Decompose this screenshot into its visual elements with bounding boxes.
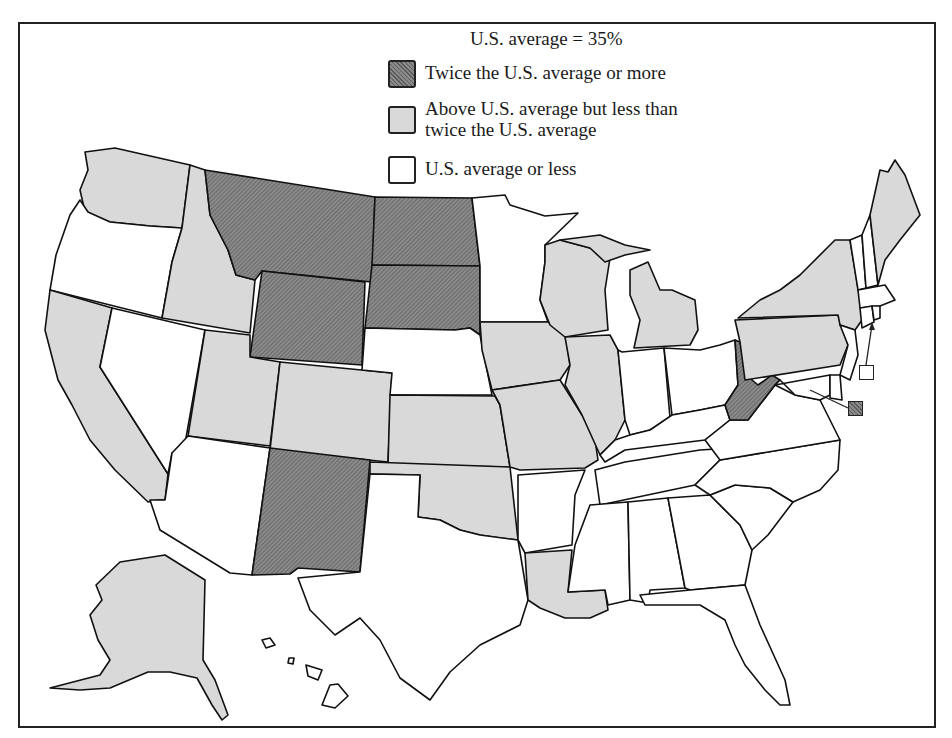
- state-new-mexico: [252, 448, 370, 575]
- state-south-dakota: [365, 265, 480, 335]
- state-hawaii-3: [306, 665, 322, 680]
- rhode-island-callout-box: [859, 365, 874, 380]
- state-hawaii-1: [262, 638, 275, 648]
- rhode-island-callout-arrow: [866, 325, 872, 365]
- legend-item-mid: Above U.S. average but less than twice t…: [388, 98, 678, 140]
- legend-item-high: Twice the U.S. average or more: [388, 60, 666, 88]
- legend-item-low: U.S. average or less: [388, 156, 576, 184]
- state-delaware: [830, 375, 842, 400]
- state-kansas: [388, 395, 510, 467]
- state-alaska: [50, 555, 228, 720]
- swatch-high: [388, 60, 416, 88]
- state-north-dakota: [372, 197, 480, 266]
- dc-callout-box: [848, 401, 863, 416]
- legend-label-low: U.S. average or less: [425, 156, 576, 179]
- swatch-mid: [388, 106, 416, 134]
- state-new-york: [738, 240, 862, 330]
- legend-label-mid: Above U.S. average but less than twice t…: [425, 98, 678, 140]
- state-maine: [870, 160, 920, 285]
- state-hawaii-2: [288, 658, 294, 664]
- legend-title: U.S. average = 35%: [470, 28, 623, 50]
- legend-label-high: Twice the U.S. average or more: [425, 60, 666, 83]
- state-pennsylvania: [735, 315, 848, 380]
- state-mississippi: [568, 502, 630, 605]
- state-florida: [640, 585, 790, 705]
- state-colorado: [270, 362, 392, 462]
- state-hawaii-4: [322, 684, 348, 708]
- swatch-low: [388, 156, 416, 184]
- state-wyoming: [250, 271, 365, 365]
- state-arkansas: [518, 470, 585, 553]
- state-massachusetts: [858, 285, 895, 308]
- state-rhode-island: [872, 306, 880, 320]
